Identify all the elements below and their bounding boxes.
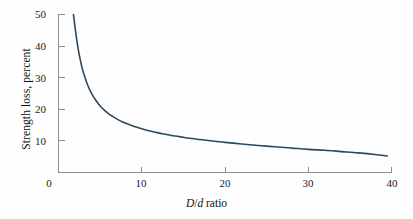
x-tick-label-10: 10 [136, 178, 147, 189]
x-tick-label-40: 40 [387, 178, 398, 189]
y-tick-label-50: 50 [22, 9, 46, 20]
x-tick-label-20: 20 [220, 178, 231, 189]
x-tick-marks [142, 167, 392, 173]
x-axis-title: D/d ratio [0, 197, 413, 209]
x-tick-label-30: 30 [303, 178, 314, 189]
chart-plot-area [0, 0, 413, 219]
x-axis-title-symbol-D: D [186, 197, 194, 209]
figure-container: 50 40 30 20 10 0 10 20 30 40 Strength lo… [0, 0, 413, 219]
x-tick-label-0: 0 [46, 178, 52, 189]
y-tick-marks [59, 15, 65, 141]
x-axis-title-rest: ratio [203, 197, 227, 209]
data-series-strength-loss [73, 15, 387, 156]
y-axis-title: Strength loss, percent [20, 29, 32, 169]
